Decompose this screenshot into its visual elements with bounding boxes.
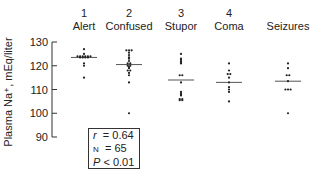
data-point — [83, 62, 85, 64]
data-point — [131, 49, 133, 51]
groups: 1Alert2Confused3Stupor4ComaSeizures — [71, 7, 310, 114]
y-tick-label: 110 — [30, 84, 48, 96]
data-point — [180, 94, 182, 96]
n-symbol: N — [93, 145, 99, 154]
group-coma: 4Coma — [214, 7, 244, 102]
data-point — [180, 53, 182, 55]
data-point — [128, 60, 130, 62]
data-point — [228, 88, 230, 90]
data-point — [128, 54, 130, 56]
data-point — [125, 49, 127, 51]
data-point — [287, 67, 289, 69]
group-stupor: 3Stupor — [165, 7, 198, 101]
data-point — [83, 65, 85, 67]
data-point — [228, 81, 230, 83]
r-symbol: r — [93, 129, 97, 141]
data-point — [180, 81, 182, 83]
data-point — [290, 88, 292, 90]
group-name: Alert — [73, 20, 96, 32]
data-point — [287, 80, 289, 82]
data-point — [128, 58, 130, 60]
stats-n: N = 65 — [93, 142, 139, 156]
data-point — [128, 49, 130, 51]
group-seizures: Seizures — [267, 20, 310, 114]
data-point — [128, 74, 130, 76]
data-point — [76, 55, 78, 57]
data-point — [83, 77, 85, 79]
group-number: 3 — [178, 7, 184, 19]
data-point — [87, 56, 89, 58]
data-point — [89, 55, 91, 57]
data-point — [128, 81, 130, 83]
data-point — [288, 74, 290, 76]
data-point — [129, 69, 131, 71]
r-value: = 0.64 — [103, 129, 134, 141]
data-point — [287, 88, 289, 90]
group-number: 2 — [126, 7, 132, 19]
group-confused: 2Confused — [105, 7, 152, 114]
data-point — [128, 67, 130, 69]
data-point — [179, 74, 181, 76]
data-point — [228, 77, 230, 79]
y-tick-label: 120 — [30, 60, 48, 72]
group-name: Stupor — [165, 20, 198, 32]
stats-r: r = 0.64 — [93, 129, 139, 142]
y-tick-label: 130 — [30, 36, 48, 48]
group-name: Seizures — [267, 20, 310, 32]
group-alert: 1Alert — [71, 7, 97, 79]
chart: 90100110120130 Plasma Na⁺, mEq/liter 1Al… — [0, 0, 319, 175]
data-point — [128, 52, 130, 54]
data-point — [228, 100, 230, 102]
data-point — [128, 112, 130, 114]
data-point — [79, 56, 81, 58]
data-point — [82, 56, 84, 58]
group-number: 1 — [81, 7, 87, 19]
group-number: 4 — [226, 7, 232, 19]
n-value: = 65 — [105, 142, 127, 154]
data-point — [83, 48, 85, 50]
p-value: < 0.01 — [103, 156, 134, 168]
y-axis-label: Plasma Na⁺, mEq/liter — [2, 37, 14, 147]
data-point — [181, 74, 183, 76]
y-axis: 90100110120130 — [30, 36, 57, 143]
data-point — [228, 62, 230, 64]
data-point — [84, 56, 86, 58]
data-point — [228, 86, 230, 88]
y-tick-label: 90 — [36, 131, 48, 143]
data-point — [181, 99, 183, 101]
data-point — [229, 73, 231, 75]
data-point — [284, 88, 286, 90]
data-point — [127, 62, 129, 64]
data-point — [286, 74, 288, 76]
group-name: Coma — [214, 20, 244, 32]
data-point — [179, 99, 181, 101]
data-point — [129, 62, 131, 64]
y-tick-label: 100 — [30, 107, 48, 119]
stats-box: r = 0.64 N = 65 P < 0.01 — [88, 128, 140, 169]
data-point — [228, 91, 230, 93]
p-symbol: P — [93, 156, 100, 168]
data-point — [228, 69, 230, 71]
group-name: Confused — [105, 20, 152, 32]
data-point — [287, 112, 289, 114]
data-point — [180, 62, 182, 64]
data-point — [287, 62, 289, 64]
data-point — [83, 53, 85, 55]
stats-p: P < 0.01 — [93, 156, 139, 169]
data-point — [128, 72, 130, 74]
data-point — [227, 73, 229, 75]
data-point — [127, 69, 129, 71]
